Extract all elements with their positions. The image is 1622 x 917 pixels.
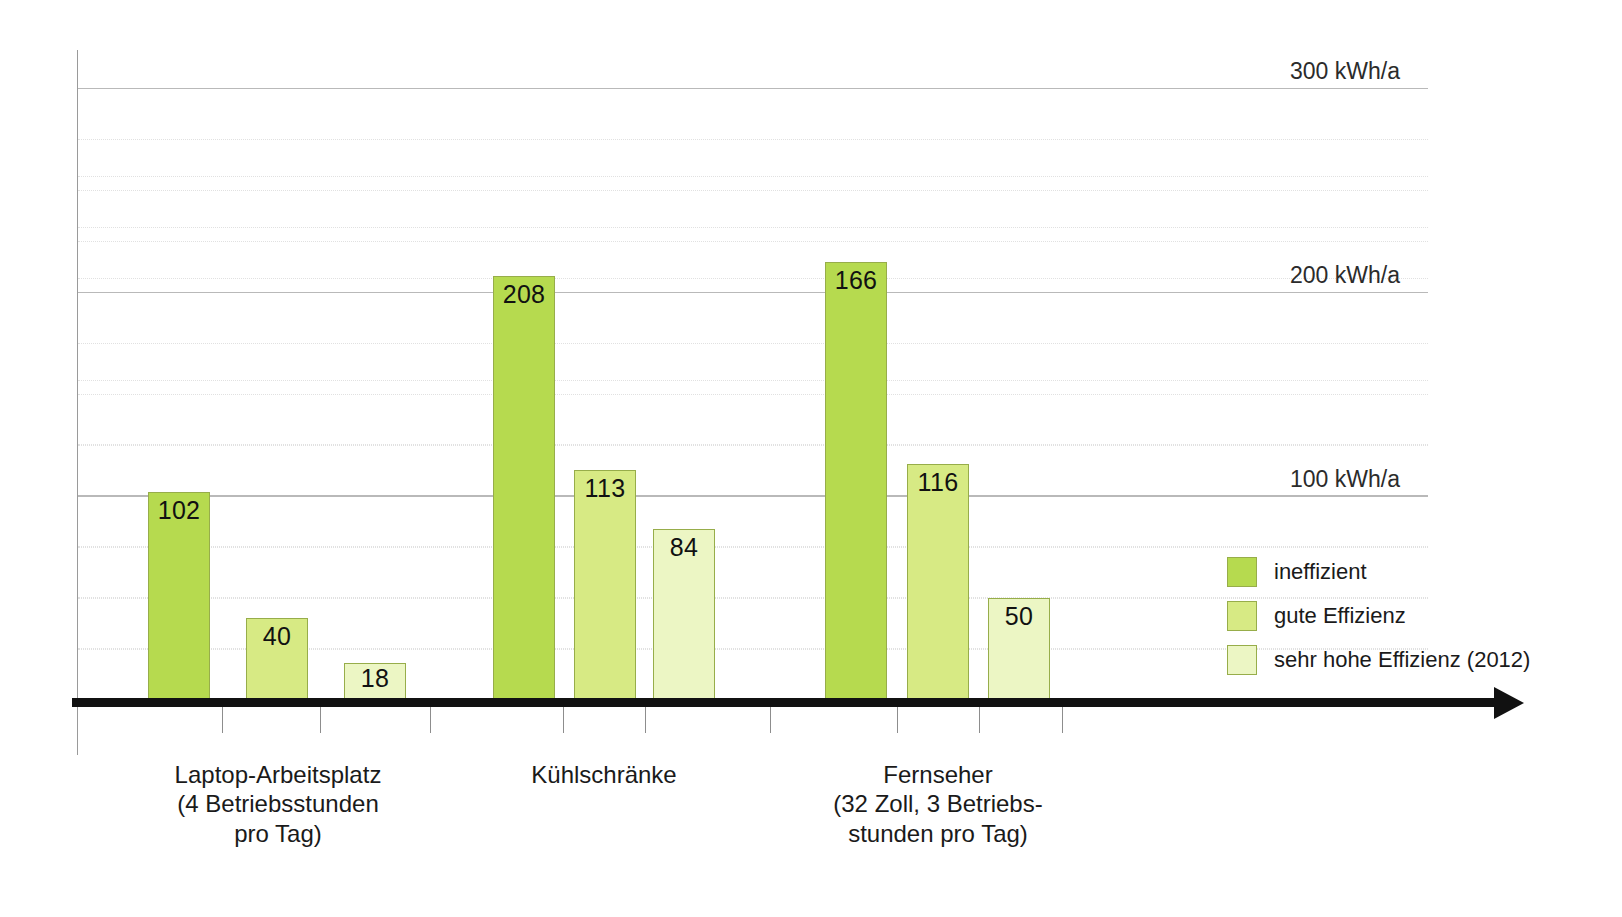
gridline-minor <box>78 227 1428 228</box>
legend-label: ineffizient <box>1274 559 1367 585</box>
y-axis-line <box>77 50 78 747</box>
bar-value-label: 18 <box>345 665 405 691</box>
bar-laptop-sehr-hoch: 18 <box>344 663 406 700</box>
gridline-minor <box>78 139 1428 140</box>
gridline-minor <box>78 241 1428 242</box>
gridline-major-100b <box>78 496 1428 497</box>
gridline-minor <box>78 547 1428 548</box>
gridline-minor <box>78 343 1428 344</box>
y-axis-label-200: 200 kWh/a <box>1290 262 1400 289</box>
x-axis-line <box>72 698 1502 707</box>
gridline-minor <box>78 278 1428 279</box>
bar-value-label: 50 <box>989 603 1049 629</box>
bar-fernseher-gut: 116 <box>907 464 969 700</box>
x-axis-tick <box>897 707 898 733</box>
legend-item-sehr-hohe-effizienz: sehr hohe Effizienz (2012) <box>1227 645 1530 675</box>
x-axis-tick <box>979 707 980 733</box>
bar-kuehlschrank-gut: 113 <box>574 470 636 700</box>
bar-laptop-ineffizient: 102 <box>148 492 210 700</box>
legend-swatch-icon <box>1227 601 1257 631</box>
legend-swatch-icon <box>1227 557 1257 587</box>
gridline-minor <box>78 190 1428 191</box>
bar-kuehlschrank-ineffizient: 208 <box>493 276 555 700</box>
gridline-major-200b <box>78 292 1428 293</box>
x-axis-tick <box>645 707 646 733</box>
x-axis-tick <box>1062 707 1063 733</box>
plot-area <box>78 50 1428 700</box>
gridline-minor <box>78 380 1428 381</box>
bar-value-label: 113 <box>575 475 635 501</box>
bar-value-label: 208 <box>494 281 554 307</box>
gridline-minor <box>78 176 1428 177</box>
gridline-minor <box>78 394 1428 395</box>
legend: ineffizient gute Effizienz sehr hohe Eff… <box>1227 557 1530 689</box>
gridline-minor <box>78 445 1428 446</box>
y-axis-label-300: 300 kWh/a <box>1290 58 1400 85</box>
bar-value-label: 40 <box>247 623 307 649</box>
bar-kuehlschrank-sehr-hoch: 84 <box>653 529 715 700</box>
legend-item-gute-effizienz: gute Effizienz <box>1227 601 1530 631</box>
gridline-minor <box>78 598 1428 599</box>
category-label-laptop: Laptop-Arbeitsplatz (4 Betriebsstunden p… <box>118 760 438 848</box>
gridline-major-300 <box>78 88 1428 89</box>
x-axis-tick <box>320 707 321 733</box>
category-label-fernseher: Fernseher (32 Zoll, 3 Betriebs- stunden … <box>788 760 1088 848</box>
bar-laptop-gut: 40 <box>246 618 308 700</box>
y-axis-stub <box>77 707 78 755</box>
x-axis-tick <box>770 707 771 733</box>
x-axis-tick <box>222 707 223 733</box>
bar-fernseher-ineffizient: 166 <box>825 262 887 700</box>
bar-fernseher-sehr-hoch: 50 <box>988 598 1050 700</box>
x-axis-tick <box>563 707 564 733</box>
legend-label: sehr hohe Effizienz (2012) <box>1274 647 1530 673</box>
bar-chart: 300 kWh/a 200 kWh/a 100 kWh/a 102 40 18 … <box>0 0 1622 917</box>
bar-value-label: 166 <box>826 267 886 293</box>
category-label-kuehlschraenke: Kühlschränke <box>484 760 724 789</box>
legend-swatch-icon <box>1227 645 1257 675</box>
legend-label: gute Effizienz <box>1274 603 1406 629</box>
y-axis-label-100: 100 kWh/a <box>1290 466 1400 493</box>
x-axis-arrow-icon <box>1494 687 1524 719</box>
legend-item-ineffizient: ineffizient <box>1227 557 1530 587</box>
x-axis-tick <box>430 707 431 733</box>
bar-value-label: 102 <box>149 497 209 523</box>
bar-value-label: 116 <box>908 469 968 495</box>
bar-value-label: 84 <box>654 534 714 560</box>
